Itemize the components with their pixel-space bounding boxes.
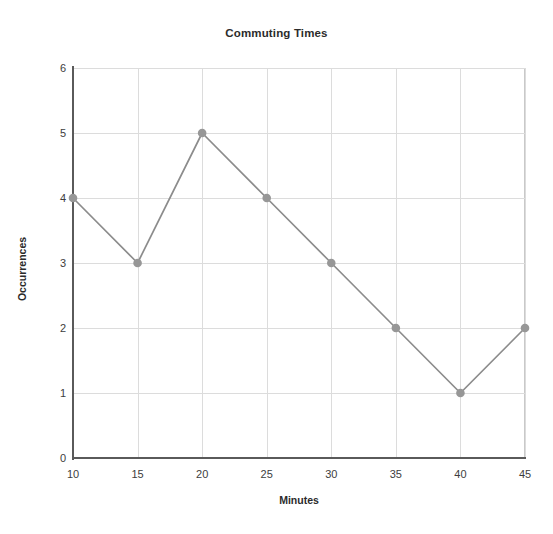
y-axis-line bbox=[72, 66, 74, 460]
y-axis-tick-labels: 0123456 bbox=[40, 0, 66, 534]
x-axis-tick-label: 40 bbox=[440, 468, 480, 480]
gridline-vertical bbox=[331, 68, 332, 458]
y-axis-tick-label: 2 bbox=[44, 322, 66, 334]
x-axis-tick-label: 35 bbox=[376, 468, 416, 480]
y-axis-tick-label: 3 bbox=[44, 257, 66, 269]
gridline-horizontal bbox=[73, 263, 525, 264]
x-axis-title: Minutes bbox=[73, 494, 525, 506]
y-axis-title: Occurrences bbox=[16, 189, 28, 349]
chart-container: Commuting Times 0123456 1015202530354045… bbox=[0, 0, 553, 534]
y-axis-tick-label: 4 bbox=[44, 192, 66, 204]
y-axis-tick-label: 0 bbox=[44, 452, 66, 464]
x-axis-tick-label: 15 bbox=[118, 468, 158, 480]
x-axis-tick-label: 30 bbox=[311, 468, 351, 480]
y-axis-tick-label: 5 bbox=[44, 127, 66, 139]
gridline-vertical bbox=[396, 68, 397, 458]
x-axis-tick-label: 25 bbox=[247, 468, 287, 480]
gridline-vertical bbox=[202, 68, 203, 458]
gridline-horizontal bbox=[73, 328, 525, 329]
x-axis-tick-label: 20 bbox=[182, 468, 222, 480]
gridline-horizontal bbox=[73, 198, 525, 199]
gridline-vertical bbox=[460, 68, 461, 458]
x-axis-line bbox=[72, 457, 526, 459]
x-axis-tick-labels: 1015202530354045 bbox=[0, 468, 553, 484]
chart-title: Commuting Times bbox=[0, 27, 553, 39]
plot-area bbox=[73, 68, 525, 458]
gridline-vertical bbox=[525, 68, 526, 458]
x-axis-tick-label: 45 bbox=[505, 468, 545, 480]
gridline-horizontal bbox=[73, 393, 525, 394]
gridline-vertical bbox=[138, 68, 139, 458]
gridline-horizontal bbox=[73, 133, 525, 134]
x-axis-tick-label: 10 bbox=[53, 468, 93, 480]
gridline-horizontal bbox=[73, 68, 525, 69]
y-axis-tick-label: 6 bbox=[44, 62, 66, 74]
gridline-vertical bbox=[267, 68, 268, 458]
y-axis-tick-label: 1 bbox=[44, 387, 66, 399]
